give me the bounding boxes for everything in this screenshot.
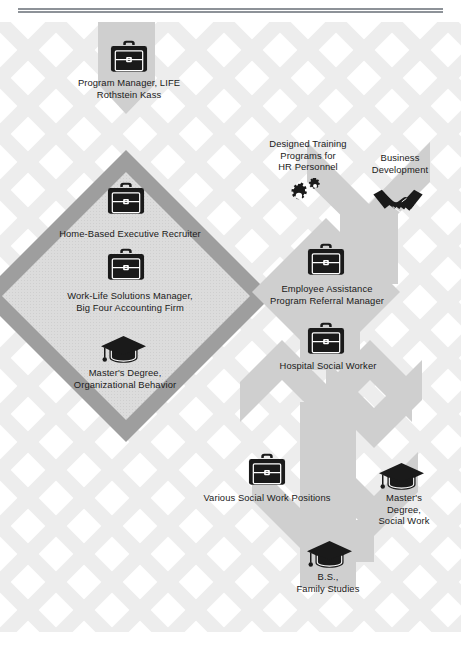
gears-icon bbox=[290, 178, 326, 208]
node-label-designed-training-programs: Designed Training Programs for HR Person… bbox=[252, 138, 364, 173]
top-divider-rule bbox=[18, 8, 443, 13]
divider-line-upper bbox=[18, 8, 443, 10]
briefcase-icon bbox=[107, 182, 145, 215]
node-label-masters-organizational-behavior: Master's Degree, Organizational Behavior bbox=[46, 367, 204, 390]
node-label-home-based-executive-recruiter: Home-Based Executive Recruiter bbox=[50, 228, 210, 240]
briefcase-icon bbox=[248, 453, 286, 486]
briefcase-icon bbox=[307, 243, 345, 276]
career-path-infographic: Program Manager, LIFE Rothstein Kass Hom… bbox=[0, 0, 461, 648]
briefcase-icon bbox=[107, 248, 145, 281]
diagram-canvas bbox=[0, 22, 461, 632]
graduation-cap-icon bbox=[306, 540, 353, 570]
node-label-business-development: Business Development bbox=[356, 152, 444, 175]
graduation-cap-icon bbox=[100, 335, 147, 365]
node-label-employee-assistance-program: Employee Assistance Program Referral Man… bbox=[254, 283, 400, 306]
node-label-various-social-work-positions: Various Social Work Positions bbox=[194, 492, 340, 504]
node-label-work-life-solutions-manager: Work-Life Solutions Manager, Big Four Ac… bbox=[48, 290, 212, 313]
divider-line-lower bbox=[18, 11, 443, 13]
node-label-hospital-social-worker: Hospital Social Worker bbox=[268, 360, 388, 372]
briefcase-icon bbox=[307, 322, 345, 355]
node-label-masters-social-work: Master's Degree, Social Work bbox=[367, 492, 441, 527]
handshake-icon bbox=[372, 186, 424, 222]
node-label-bs-family-studies: B.S., Family Studies bbox=[268, 571, 388, 594]
briefcase-icon bbox=[110, 40, 148, 73]
graduation-cap-icon bbox=[378, 462, 425, 492]
node-label-program-manager-life: Program Manager, LIFE Rothstein Kass bbox=[54, 77, 204, 100]
diagram-svg bbox=[0, 22, 461, 632]
